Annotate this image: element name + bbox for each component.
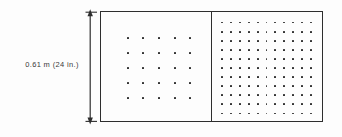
fastener-dot — [239, 58, 241, 60]
fastener-dot — [292, 22, 294, 24]
fastener-dot — [248, 67, 250, 69]
fastener-dot — [239, 22, 241, 24]
fastener-dot — [301, 85, 303, 87]
fastener-dot — [283, 40, 285, 42]
fastener-dot — [274, 40, 276, 42]
dense-dot-grid — [218, 18, 315, 118]
fastener-dot — [274, 67, 276, 69]
fastener-dot — [142, 52, 144, 54]
sparse-dot-grid — [120, 30, 198, 106]
fastener-dot — [292, 85, 294, 87]
fastener-dot — [310, 22, 312, 24]
fastener-dot — [301, 67, 303, 69]
fastener-dot — [221, 58, 223, 60]
fastener-dot — [158, 82, 160, 84]
fastener-dot — [230, 113, 232, 115]
fastener-dot — [301, 31, 303, 33]
fastener-dot — [174, 67, 176, 69]
fastener-dot — [221, 67, 223, 69]
fastener-dot — [310, 113, 312, 115]
fastener-dot — [274, 94, 276, 96]
fastener-dot — [283, 85, 285, 87]
fastener-dot — [283, 94, 285, 96]
fastener-dot — [158, 67, 160, 69]
fastener-dot — [221, 94, 223, 96]
fastener-dot — [221, 103, 223, 105]
fastener-dot — [239, 94, 241, 96]
panel-assembly-outline — [100, 11, 323, 122]
fastener-dot — [257, 67, 259, 69]
fastener-dot — [221, 40, 223, 42]
fastener-dot — [142, 67, 144, 69]
fastener-dot — [230, 22, 232, 24]
fastener-dot — [158, 97, 160, 99]
fastener-dot — [310, 103, 312, 105]
fastener-dot — [230, 67, 232, 69]
fastener-dot — [274, 58, 276, 60]
fastener-dot — [283, 58, 285, 60]
fastener-dot — [248, 31, 250, 33]
fastener-dot — [301, 94, 303, 96]
fastener-dot — [283, 103, 285, 105]
fastener-dot — [127, 82, 129, 84]
fastener-dot — [266, 40, 268, 42]
fastener-dot — [283, 76, 285, 78]
fastener-dot — [301, 40, 303, 42]
fastener-dot — [142, 37, 144, 39]
fastener-dot — [266, 113, 268, 115]
fastener-dot — [292, 58, 294, 60]
fastener-dot — [274, 85, 276, 87]
fastener-dot — [174, 37, 176, 39]
fastener-dot — [189, 82, 191, 84]
fastener-dot — [310, 58, 312, 60]
fastener-dot — [283, 31, 285, 33]
fastener-dot — [274, 76, 276, 78]
dimension-label: 0.61 m (24 in.) — [16, 61, 88, 69]
fastener-dot — [310, 85, 312, 87]
fastener-dot — [292, 103, 294, 105]
fastener-dot — [248, 76, 250, 78]
fastener-dot — [292, 67, 294, 69]
fastener-dot — [239, 49, 241, 51]
fastener-dot — [292, 40, 294, 42]
fastener-dot — [239, 103, 241, 105]
fastener-dot — [274, 113, 276, 115]
fastener-dot — [301, 113, 303, 115]
fastener-dot — [221, 31, 223, 33]
fastener-dot — [301, 58, 303, 60]
fastener-dot — [257, 31, 259, 33]
fastener-dot — [257, 113, 259, 115]
fastener-dot — [248, 103, 250, 105]
fastener-dot — [239, 85, 241, 87]
fastener-dot — [292, 113, 294, 115]
fastener-dot — [266, 31, 268, 33]
fastener-dot — [310, 94, 312, 96]
fastener-dot — [239, 31, 241, 33]
fastener-dot — [301, 103, 303, 105]
fastener-dot — [274, 31, 276, 33]
fastener-dot — [310, 40, 312, 42]
fastener-dot — [266, 85, 268, 87]
fastener-dot — [257, 58, 259, 60]
fastener-dot — [310, 31, 312, 33]
fastener-dot — [142, 97, 144, 99]
right-panel — [211, 12, 321, 121]
fastener-dot — [239, 76, 241, 78]
fastener-dot — [310, 67, 312, 69]
fastener-dot — [221, 76, 223, 78]
fastener-dot — [221, 22, 223, 24]
fastener-dot — [142, 82, 144, 84]
fastener-dot — [310, 49, 312, 51]
fastener-dot — [230, 103, 232, 105]
fastener-dot — [266, 67, 268, 69]
fastener-dot — [283, 67, 285, 69]
fastener-dot — [266, 58, 268, 60]
fastener-dot — [158, 37, 160, 39]
fastener-dot — [174, 97, 176, 99]
fastener-dot — [221, 85, 223, 87]
fastener-dot — [230, 58, 232, 60]
fastener-dot — [189, 37, 191, 39]
fastener-dot — [274, 103, 276, 105]
fastener-dot — [189, 52, 191, 54]
fastener-dot — [301, 76, 303, 78]
